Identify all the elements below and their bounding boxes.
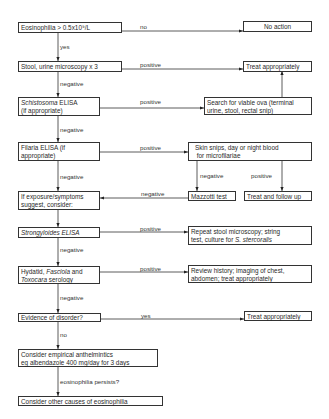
label-positive-1: positive <box>140 61 161 69</box>
schisto-elisa: ELISA <box>58 99 78 106</box>
exposure-2: suggest, consider: <box>21 201 73 208</box>
skin-1: Skin snips, day or night blood <box>195 144 278 151</box>
search-2: urine, stool, rectal snip) <box>207 107 273 114</box>
skin-2: for microfilariae <box>197 152 241 159</box>
hydatid-2: Fasciola <box>46 268 70 275</box>
repeat-1: Repeat stool microscopy; string <box>191 228 280 235</box>
label-negative-skin: negative <box>200 172 223 180</box>
strongyloides-box: Strongyloides ELISA <box>18 227 100 238</box>
label-no-1: no <box>140 23 147 31</box>
filaria-box: Filaria ELISA (ifappropriate) <box>18 142 100 161</box>
eosinophilia-text: Eosinophilia > 0.5x10⁹/L <box>21 24 90 31</box>
hydatid-1: Hydatid, <box>21 268 46 275</box>
mazzotti-text: Mazzotti test <box>191 193 227 200</box>
label-negative-5: negative <box>60 294 83 302</box>
label-negative-1: negative <box>60 80 83 88</box>
stool-box: Stool, urine microscopy x 3 <box>18 61 122 72</box>
label-yes-2: yes <box>141 312 151 320</box>
label-negative-2: negative <box>60 126 83 134</box>
treat-follow-text: Treat and follow up <box>247 193 301 200</box>
schistosoma-box: Schistosoma ELISA(if appropriate) <box>18 97 100 116</box>
no-action-box: No action <box>243 21 312 32</box>
search-ova-box: Search for viable ova (terminalurine, st… <box>204 97 312 115</box>
treat-appropriately-box-1: Treat appropriately <box>243 61 312 72</box>
review-1: Review history; imaging of chest, <box>191 267 284 274</box>
evidence-box: Evidence of disorder? <box>18 313 101 322</box>
label-positive-2: positive <box>140 98 161 106</box>
hydatid-4: Toxocara <box>21 276 47 283</box>
evidence-text: Evidence of disorder? <box>21 314 83 321</box>
label-negative-4: negative <box>60 246 83 254</box>
mazzotti-box: Mazzotti test <box>188 191 236 201</box>
label-yes-1: yes <box>60 43 70 51</box>
schisto-if: (if appropriate) <box>21 107 63 114</box>
treat2-text: Treat appropriately <box>247 313 300 320</box>
other-causes-box: Consider other causes of eosinophilia <box>18 396 163 406</box>
empirical-box: Consider empirical anthelminticseg alben… <box>18 349 158 367</box>
schisto-italic: Schistosoma <box>21 99 58 106</box>
filaria-2: appropriate) <box>21 152 55 159</box>
strongy-text: Strongyloides ELISA <box>21 229 80 236</box>
treat-appropriately-box-2: Treat appropriately <box>244 311 312 321</box>
exposure-1: If exposure/symptoms <box>21 193 84 200</box>
empirical-1: Consider empirical anthelmintics <box>21 351 113 358</box>
repeat-stool-box: Repeat stool microscopy; stringtest, cul… <box>188 226 312 245</box>
hydatid-box: Hydatid, Fasciola andToxocara serology <box>18 266 100 284</box>
review-2: abdomen; treat appropriately <box>191 275 273 282</box>
other-text: Consider other causes of eosinophilia <box>21 398 128 405</box>
repeat-3: S. stercoralis <box>235 236 272 243</box>
review-history-box: Review history; imaging of chest,abdomen… <box>188 265 312 283</box>
label-positive-5: positive <box>140 265 161 273</box>
exposure-box: If exposure/symptomssuggest, consider: <box>18 191 100 210</box>
eosinophilia-box: Eosinophilia > 0.5x10⁹/L <box>18 22 122 33</box>
treat-follow-box: Treat and follow up <box>244 191 312 201</box>
label-negative-back: negative <box>141 190 164 198</box>
skin-snips-box: Skin snips, day or night blood for micro… <box>188 142 312 161</box>
label-positive-3: positive <box>140 144 161 152</box>
empirical-2: eg albendazole 400 mg/day for 3 days <box>21 359 129 366</box>
no-action-text: No action <box>264 23 291 30</box>
label-negative-3: negative <box>60 173 83 181</box>
label-persists: eosinophilia persists? <box>60 378 119 386</box>
hydatid-3: and <box>70 268 82 275</box>
label-positive-skin: positive <box>251 172 272 180</box>
label-positive-4: positive <box>140 225 161 233</box>
treat1-text: Treat appropriately <box>246 63 299 70</box>
repeat-2: test, culture for <box>191 236 235 243</box>
label-no-2: no <box>60 331 67 339</box>
hydatid-5: serology <box>47 276 73 283</box>
stool-text: Stool, urine microscopy x 3 <box>21 63 98 70</box>
search-1: Search for viable ova (terminal <box>207 99 294 106</box>
filaria-1: Filaria ELISA (if <box>21 144 65 151</box>
